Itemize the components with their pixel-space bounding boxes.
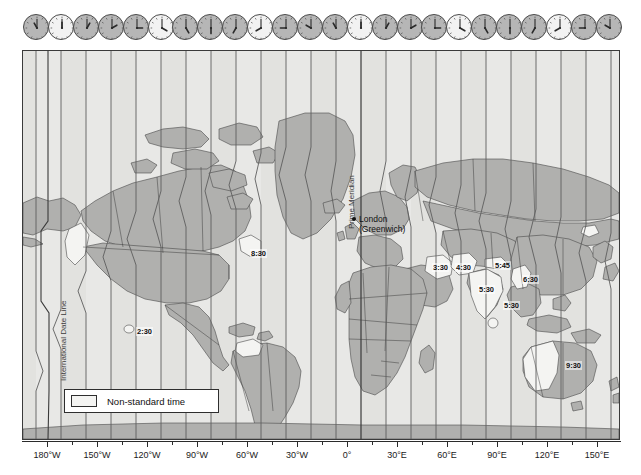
axis-minor-tick-1	[122, 442, 123, 445]
clock-face-10	[273, 15, 299, 41]
axis-minor-tick-10	[572, 442, 573, 445]
clock-face-8	[223, 15, 249, 41]
clock-face-16	[422, 15, 448, 41]
axis-minor-tick-9	[522, 442, 523, 445]
clock-zone-17	[446, 14, 472, 40]
axis-label-8: 60°E	[437, 450, 457, 460]
clock-face-3	[99, 15, 125, 41]
clock-zone-2	[73, 14, 99, 40]
clock-face-17	[447, 15, 473, 41]
clock-face-21	[547, 15, 573, 41]
timezone-map-figure: International Date Line Prime Meridian L…	[0, 0, 641, 475]
clock-face-13	[348, 15, 374, 41]
clock-face-11	[298, 15, 324, 41]
clock-face-6	[173, 15, 199, 41]
clock-zone-10	[272, 14, 298, 40]
clock-zone-0	[23, 14, 49, 40]
axis-label-4: 60°W	[236, 450, 258, 460]
offset-label-5-30-5: 5:30	[478, 285, 495, 294]
offset-label-2-30-1: 2:30	[136, 327, 153, 336]
legend-label: Non-standard time	[107, 396, 185, 407]
axis-label-11: 150°E	[585, 450, 610, 460]
clock-zone-6	[172, 14, 198, 40]
axis-label-2: 120°W	[133, 450, 160, 460]
clock-zone-5	[148, 14, 174, 40]
axis-minor-tick-2	[172, 442, 173, 445]
clock-face-14	[373, 15, 399, 41]
clock-zone-23	[596, 14, 622, 40]
legend-swatch-nonstandard	[71, 395, 97, 407]
clock-face-12	[323, 15, 349, 41]
city-name: London	[359, 214, 405, 224]
axis-tick-0	[47, 442, 48, 447]
axis-tick-3	[197, 442, 198, 447]
axis-minor-tick-0	[72, 442, 73, 445]
axis-tick-4	[247, 442, 248, 447]
clock-face-9	[248, 15, 274, 41]
clock-zone-19	[496, 14, 522, 40]
clock-zone-15	[397, 14, 423, 40]
offset-label-4-30-3: 4:30	[455, 263, 472, 272]
offset-label-3-30-2: 3:30	[432, 263, 449, 272]
axis-tick-7	[397, 442, 398, 447]
axis-minor-tick-4	[272, 442, 273, 445]
clock-zone-21	[546, 14, 572, 40]
axis-label-10: 120°E	[535, 450, 560, 460]
clock-zone-14	[372, 14, 398, 40]
clock-zone-13	[347, 14, 373, 40]
clock-zone-8	[222, 14, 248, 40]
clock-face-7	[198, 15, 224, 41]
clock-zone-3	[98, 14, 124, 40]
clock-zone-12	[322, 14, 348, 40]
clock-zone-7	[197, 14, 223, 40]
clock-face-18	[472, 15, 498, 41]
axis-minor-tick-5	[322, 442, 323, 445]
clock-face-4	[124, 15, 150, 41]
clock-zone-1	[48, 14, 74, 40]
axis-tick-6	[347, 442, 348, 447]
world-map[interactable]: International Date Line Prime Meridian L…	[22, 50, 620, 440]
axis-minor-tick-8	[472, 442, 473, 445]
axis-label-9: 90°E	[487, 450, 507, 460]
clock-zone-18	[471, 14, 497, 40]
clock-face-23	[597, 15, 623, 41]
clock-face-15	[398, 15, 424, 41]
offset-label-5-30-6: 5:30	[503, 301, 520, 310]
axis-minor-tick-7	[422, 442, 423, 445]
clock-face-19	[497, 15, 523, 41]
prime-meridian-label: Prime Meridian	[347, 175, 356, 229]
london-marker-label: London (Greenwich)	[359, 214, 405, 234]
axis-tick-1	[97, 442, 98, 447]
international-date-line-label: International Date Line	[59, 301, 68, 382]
map-graphics	[23, 51, 619, 439]
clock-zone-16	[421, 14, 447, 40]
axis-label-5: 30°W	[286, 450, 308, 460]
clock-zone-22	[571, 14, 597, 40]
offset-label-9-30-8: 9:30	[565, 361, 582, 370]
axis-tick-11	[597, 442, 598, 447]
clock-zone-4	[123, 14, 149, 40]
clock-face-22	[572, 15, 598, 41]
axis-tick-10	[547, 442, 548, 447]
offset-label-8-30-0: 8:30	[250, 249, 267, 258]
london-marker-dot	[352, 217, 356, 221]
offset-label-6-30-7: 6:30	[522, 275, 539, 284]
city-qualifier: (Greenwich)	[359, 224, 405, 234]
clock-strip	[0, 0, 641, 46]
axis-tick-9	[497, 442, 498, 447]
axis-label-6: 0°	[343, 450, 352, 460]
axis-minor-tick-3	[222, 442, 223, 445]
clock-zone-9	[247, 14, 273, 40]
axis-tick-2	[147, 442, 148, 447]
clock-face-1	[49, 15, 75, 41]
clock-face-20	[522, 15, 548, 41]
axis-tick-8	[447, 442, 448, 447]
axis-label-0: 180°W	[33, 450, 60, 460]
axis-label-3: 90°W	[186, 450, 208, 460]
clock-zone-20	[521, 14, 547, 40]
clock-face-0	[24, 15, 50, 41]
axis-label-7: 30°E	[387, 450, 407, 460]
clock-face-2	[74, 15, 100, 41]
offset-label-5-45-4: 5:45	[494, 261, 511, 270]
axis-tick-5	[297, 442, 298, 447]
